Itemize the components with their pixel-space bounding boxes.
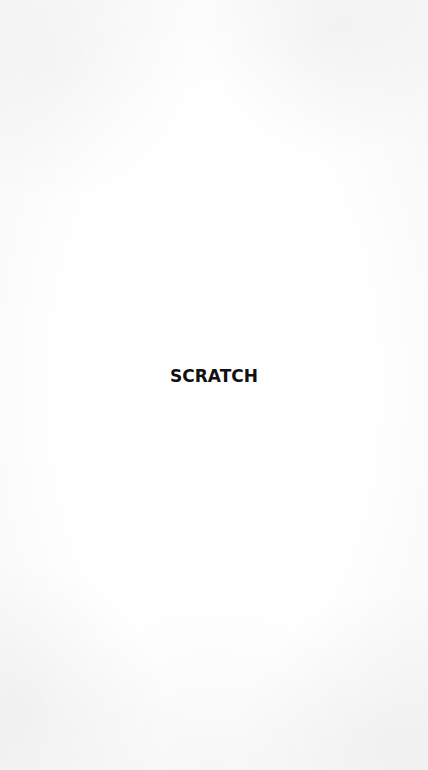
splash-screen: SCRATCH	[0, 0, 428, 770]
app-title: SCRATCH	[0, 366, 428, 386]
